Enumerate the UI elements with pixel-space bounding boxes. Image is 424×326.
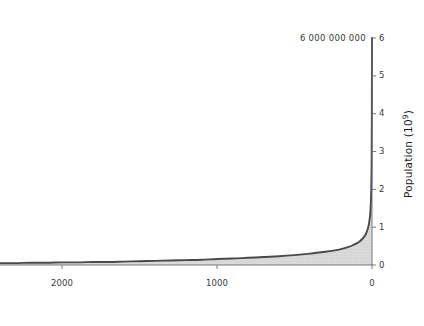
- y-axis-tick-label: 0: [379, 260, 385, 270]
- x-axis-tick-label: 2000: [32, 278, 92, 288]
- y-axis-title: Population (109): [402, 110, 414, 198]
- y-axis-tick-label: 5: [379, 70, 385, 80]
- x-axis-tick-label: 0: [342, 278, 402, 288]
- peak-value-annotation: 6 000 000 000: [300, 33, 366, 43]
- y-axis-title-exponent: 9: [401, 114, 410, 119]
- x-axis-ticks: [62, 265, 372, 269]
- y-axis-tick-label: 2: [379, 184, 385, 194]
- y-axis-title-paren: ): [402, 110, 414, 114]
- y-axis-title-text: Population (10: [402, 119, 414, 198]
- y-axis-tick-label: 3: [379, 146, 385, 156]
- population-area-fill: [0, 38, 372, 265]
- y-axis-tick-label: 6: [379, 33, 385, 43]
- y-axis-tick-label: 1: [379, 222, 385, 232]
- population-curve-line: [0, 38, 372, 263]
- chart-axes: [0, 38, 376, 269]
- x-axis-tick-label: 1000: [187, 278, 247, 288]
- population-growth-chart: 0123456 200010000 6 000 000 000 Populati…: [0, 0, 424, 326]
- y-axis-tick-label: 4: [379, 108, 385, 118]
